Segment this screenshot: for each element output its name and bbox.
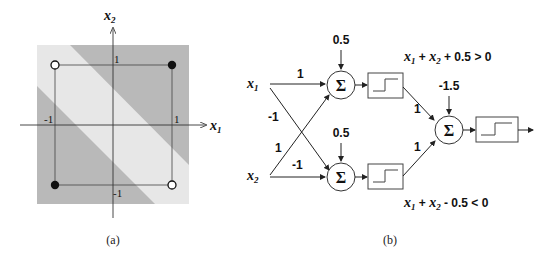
weight-x2-bottom: -1	[292, 158, 303, 172]
weight-top-out: 1	[414, 102, 421, 116]
filled-point-top-right	[168, 61, 176, 69]
weight-bottom-out: 1	[414, 140, 421, 154]
bias-output: -1.5	[439, 79, 460, 93]
equation-top: x1 + x2 + 0.5 > 0	[403, 49, 492, 66]
sum-symbol-output: Σ	[444, 122, 454, 139]
tick-x-pos: 1	[174, 113, 180, 125]
tick-x-neg: -1	[44, 113, 53, 125]
step-function-output	[476, 117, 518, 142]
x1-axis-label: x1	[209, 118, 222, 135]
input-x1-label: x1	[246, 76, 259, 93]
open-point-top-left	[51, 61, 59, 69]
bias-top: 0.5	[333, 33, 350, 47]
caption-a: (a)	[106, 233, 119, 247]
tick-y-neg: -1	[113, 187, 122, 199]
weight-x1-top: 1	[297, 67, 304, 81]
filled-point-bottom-left	[51, 181, 59, 189]
open-point-bottom-right	[168, 181, 176, 189]
caption-b: (b)	[383, 233, 397, 247]
bias-bottom: 0.5	[333, 126, 350, 140]
figure-a: -1 1 1 -1 x1 x2 (a)	[20, 8, 222, 247]
weight-x1-bottom: -1	[268, 110, 279, 124]
figure-canvas: -1 1 1 -1 x1 x2 (a) x1 x2 1 -1 1 -1 0.5 …	[0, 0, 546, 259]
input-x2-label: x2	[246, 168, 259, 185]
sum-symbol-top: Σ	[336, 77, 346, 94]
tick-y-pos: 1	[114, 53, 120, 65]
equation-bottom: x1 + x2 - 0.5 < 0	[403, 195, 489, 212]
sum-symbol-bottom: Σ	[336, 169, 346, 186]
x2-axis-label: x2	[103, 8, 116, 25]
weight-x2-top: 1	[275, 141, 282, 155]
figure-b: x1 x2 1 -1 1 -1 0.5 Σ 0.5 Σ 1 1 -1.5	[246, 33, 533, 247]
